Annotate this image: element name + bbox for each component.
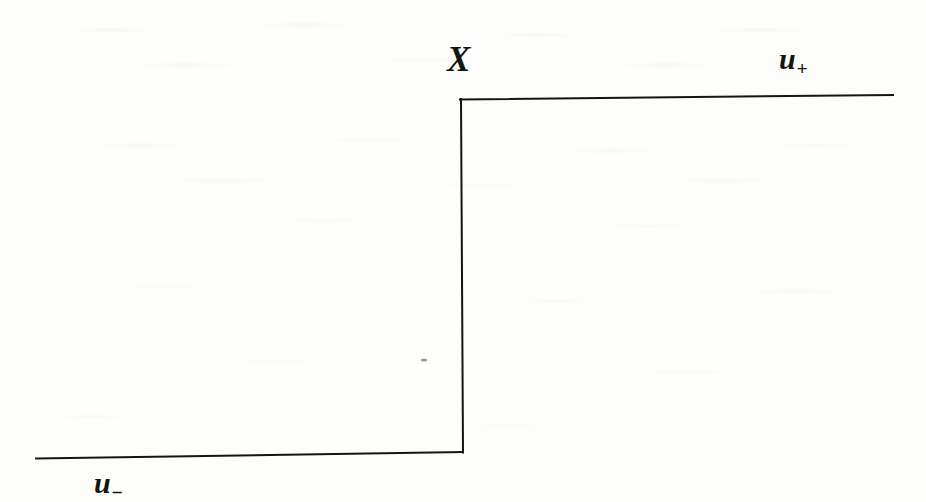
figure-canvas: X u+ u−	[0, 0, 926, 502]
right-state-base: u	[779, 42, 796, 75]
upper-state-line	[460, 95, 893, 100]
scan-speck	[421, 358, 427, 361]
right-state-label: u+	[779, 44, 808, 79]
left-state-label: u−	[94, 468, 123, 502]
lower-state-line	[36, 452, 463, 459]
curve-group	[36, 95, 893, 459]
left-state-base: u	[94, 466, 111, 499]
left-state-subscript: −	[111, 481, 122, 502]
jump-position-label: X	[447, 42, 470, 77]
right-state-subscript: +	[796, 57, 807, 79]
jump-discontinuity-line	[461, 99, 463, 453]
